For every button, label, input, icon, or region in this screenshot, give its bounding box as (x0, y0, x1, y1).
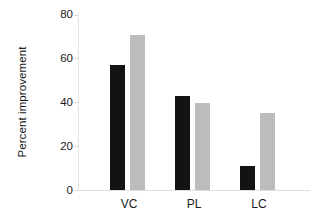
x-tick-label-lc: LC (229, 198, 289, 210)
y-tick-label-40: 40 (43, 97, 73, 109)
y-axis-tick-labels: 80 60 40 20 0 (40, 0, 73, 222)
bar-lc-gray (260, 113, 275, 190)
y-tick-label-20: 20 (43, 141, 73, 153)
x-tick-label-pl: PL (164, 198, 224, 210)
plot-area (78, 15, 310, 190)
y-tick-label-60: 60 (43, 53, 73, 65)
y-axis-title: Percent improvement (16, 22, 28, 182)
y-tick-label-0: 0 (43, 185, 73, 197)
bar-pl-black (175, 96, 190, 190)
bar-chart: Percent improvement 80 60 40 20 0 VC PL … (0, 0, 316, 222)
x-axis-line (78, 190, 310, 191)
bar-vc-gray (130, 35, 145, 190)
bar-pl-gray (195, 103, 210, 191)
bar-vc-black (110, 65, 125, 190)
y-tick-label-80: 80 (43, 9, 73, 21)
bar-lc-black (240, 166, 255, 190)
x-tick-label-vc: VC (99, 198, 159, 210)
